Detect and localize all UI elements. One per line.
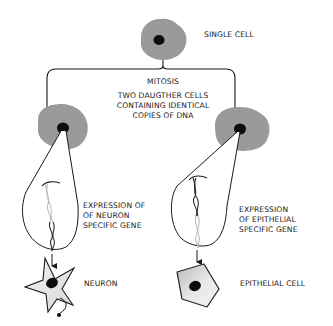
label-daughter-cells-line2: CONTAINING IDENTICAL [83, 101, 243, 111]
epithelial-cell [177, 264, 219, 307]
label-neuron-expression-line3: SPECIFIC GENE [83, 221, 142, 231]
label-daughter-cells-line1: TWO DAUGTHER CELLS [83, 91, 243, 101]
nucleus-icon [154, 35, 165, 45]
single-cell [141, 19, 187, 60]
label-neuron-expression-line2: OF NEURON [83, 211, 130, 221]
label-epithelial-expression-line3: SPECIFIC GENE [239, 225, 298, 235]
magnifier-right [171, 132, 240, 246]
label-single-cell: SINGLE CELL [204, 30, 254, 40]
label-daughter-cells-line3: COPIES OF DNA [83, 111, 243, 121]
axon-terminal-icon [57, 313, 61, 317]
label-epithelial-expression-line2: OF EPITHELIAL [239, 215, 296, 225]
label-neuron: NEURON [84, 279, 118, 289]
label-neuron-expression-line1: EXPRESSION OF [83, 201, 145, 211]
label-mitosis: MITOSIS [93, 77, 233, 87]
label-epithelial-expression-line1: EXPRESSION [239, 205, 288, 215]
label-epithelial-cell: EPITHELIAL CELL [240, 279, 305, 289]
mitosis-differentiation-diagram [0, 0, 333, 326]
neuron-cell [25, 258, 74, 317]
